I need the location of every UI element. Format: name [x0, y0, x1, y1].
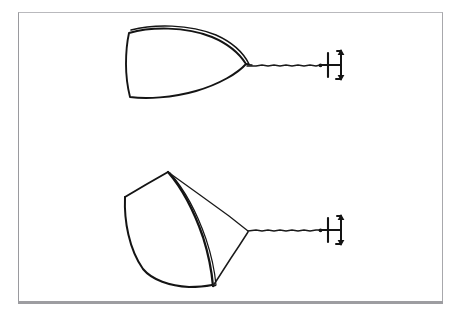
plan-view-tip-connector [246, 64, 252, 65]
technical-line-drawing [0, 0, 461, 314]
perspective-view-support-stem [248, 230, 320, 231]
plan-view-shell-body [126, 29, 246, 98]
top-panel-plan-view [126, 26, 344, 98]
bottom-panel-perspective-view [125, 172, 345, 287]
plan-view-support-stem [247, 65, 320, 66]
perspective-view-lower-ridge [213, 232, 248, 286]
figure-page: Teardrop / leaf shaped curved shell seen… [0, 0, 461, 314]
